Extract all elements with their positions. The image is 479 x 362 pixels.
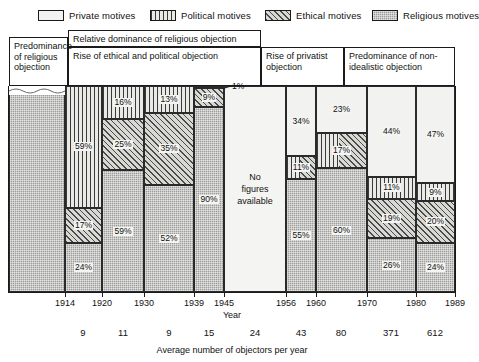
column-1914-1920[interactable]: 59%17%24%	[65, 86, 102, 292]
segment-label: 60%	[332, 226, 351, 235]
segment-label: 55%	[291, 231, 310, 240]
axis-baseline	[8, 292, 456, 293]
plot-border-right	[455, 86, 456, 292]
column-1970-1980[interactable]: 44%11%19%26%	[367, 86, 416, 292]
no-figures-word: figures	[241, 183, 268, 195]
segment-1960-1970-private[interactable]: 23%	[316, 86, 367, 133]
column-pre-1914[interactable]	[9, 86, 65, 292]
segment-label: 17%	[332, 146, 351, 155]
segment-1980-1989-ethical[interactable]: 20%	[416, 201, 455, 242]
segment-label: 35%	[159, 144, 178, 153]
segment-1914-1920-ethical[interactable]: 17%	[65, 208, 102, 243]
segment-1930-1939-ethical[interactable]: 35%	[144, 113, 194, 185]
legend-item-political[interactable]: Political motives	[150, 6, 251, 24]
x-tick	[194, 292, 195, 297]
objectors-per-year-value: 11	[118, 327, 128, 338]
segment-1930-1939-religious[interactable]: 52%	[144, 185, 194, 292]
segment-1970-1980-private[interactable]: 44%	[367, 86, 416, 177]
x-tick	[65, 292, 66, 297]
segment-label: 11%	[382, 183, 400, 192]
segment-pre-1914-religious[interactable]	[9, 86, 65, 292]
objectors-per-year-value: 9	[80, 327, 85, 338]
x-tick-label: 1960	[306, 298, 326, 308]
x-tick	[416, 292, 417, 297]
segment-label: 24%	[426, 263, 445, 272]
segment-1930-1939-political[interactable]: 13%	[144, 86, 194, 113]
segment-1939-1945-ethical[interactable]: 9%	[194, 88, 224, 107]
column-1956-1960[interactable]: 34%11%55%	[286, 86, 316, 292]
objectors-per-year-value: 371	[383, 327, 399, 338]
segment-1980-1989-religious[interactable]: 24%	[416, 243, 455, 292]
segment-1970-1980-religious[interactable]: 26%	[367, 238, 416, 292]
segment-label: 44%	[382, 127, 401, 136]
x-tick	[455, 292, 456, 297]
objectors-per-year-value: 24	[250, 327, 261, 338]
segment-1980-1989-political[interactable]: 9%	[416, 183, 455, 202]
chart-legend: Private motivesPolitical motivesEthical …	[0, 6, 464, 26]
segment-1960-1970-religious[interactable]: 60%	[316, 168, 367, 292]
column-1920-1930[interactable]: 16%25%59%	[102, 86, 144, 292]
x-tick-label: 1989	[445, 298, 465, 308]
no-figures-word: available	[237, 195, 273, 207]
segment-1939-1945-religious[interactable]: 90%	[194, 107, 224, 292]
legend-label-religious: Religious motives	[403, 10, 479, 21]
segment-1956-1960-religious[interactable]: 55%	[286, 179, 316, 292]
objectors-per-year-value: 80	[336, 327, 347, 338]
segment-1914-1920-political[interactable]: 59%	[65, 86, 102, 208]
objectors-per-year-value: 9	[166, 327, 171, 338]
segment-label: 26%	[382, 261, 401, 270]
legend-item-private[interactable]: Private motives	[38, 6, 135, 24]
x-tick	[286, 292, 287, 297]
header-predominance-religious: Predominance of religious objection	[9, 37, 68, 86]
x-tick	[367, 292, 368, 297]
segment-1956-1960-private[interactable]: 34%	[286, 86, 316, 156]
header-rise-privatist: Rise of privatist objection	[261, 47, 344, 86]
segment-1956-1960-political_ethical[interactable]: 11%	[286, 156, 316, 179]
segment-label: 19%	[382, 214, 401, 223]
objectors-per-year-value: 15	[204, 327, 215, 338]
x-tick	[316, 292, 317, 297]
segment-label: 11%	[292, 163, 310, 172]
x-tick-label: 1920	[92, 298, 112, 308]
segment-1960-1970-political_ethical[interactable]: 17%	[316, 133, 367, 168]
no-figures-note: Nofiguresavailable	[224, 86, 286, 292]
segment-1970-1980-ethical[interactable]: 19%	[367, 199, 416, 238]
objectors-per-year-value: 612	[427, 327, 443, 338]
segment-1920-1930-religious[interactable]: 59%	[102, 170, 144, 292]
segment-1920-1930-ethical[interactable]: 25%	[102, 119, 144, 171]
segment-label: 24%	[74, 263, 93, 272]
legend-label-political: Political motives	[181, 10, 251, 21]
legend-label-private: Private motives	[69, 10, 135, 21]
segment-1980-1989-private[interactable]: 47%	[416, 86, 455, 183]
column-1960-1970[interactable]: 23%17%60%	[316, 86, 367, 292]
segment-1970-1980-political[interactable]: 11%	[367, 177, 416, 200]
plot-area: 59%17%24%16%25%59%13%35%52%9%90%Nofigure…	[9, 86, 455, 292]
segment-1914-1920-religious[interactable]: 24%	[65, 243, 102, 292]
column-1930-1939[interactable]: 13%35%52%	[144, 86, 194, 292]
segment-label: 23%	[332, 105, 351, 114]
no-figures-word: No	[249, 171, 261, 183]
segment-label: 20%	[426, 217, 445, 226]
legend-item-religious[interactable]: Religious motives	[372, 6, 479, 24]
x-tick-label: 1945	[214, 298, 234, 308]
x-tick-label: 1956	[276, 298, 296, 308]
column-1980-1989[interactable]: 47%9%20%24%	[416, 86, 455, 292]
axis-break-wave-icon	[9, 86, 65, 95]
segment-label: 25%	[113, 140, 132, 149]
legend-item-ethical[interactable]: Ethical motives	[265, 6, 361, 24]
column-1939-1945[interactable]: 9%90%	[194, 86, 224, 292]
legend-swatch-political-icon	[150, 10, 176, 21]
x-tick-label: 1980	[406, 298, 426, 308]
legend-swatch-religious-icon	[372, 10, 398, 21]
column-1945-1956[interactable]: Nofiguresavailable	[224, 86, 286, 292]
legend-label-ethical: Ethical motives	[296, 10, 361, 21]
x-tick	[102, 292, 103, 297]
segment-label: 59%	[113, 227, 132, 236]
x-axis-title: Year	[223, 310, 241, 320]
segment-1920-1930-political[interactable]: 16%	[102, 86, 144, 119]
x-tick	[224, 292, 225, 297]
x-tick-label: 1970	[357, 298, 377, 308]
header-predominance-non-idealistic: Predominance of non-idealistic objection	[344, 47, 455, 86]
header-relative-dominance: Relative dominance of religious objectio…	[68, 30, 261, 47]
